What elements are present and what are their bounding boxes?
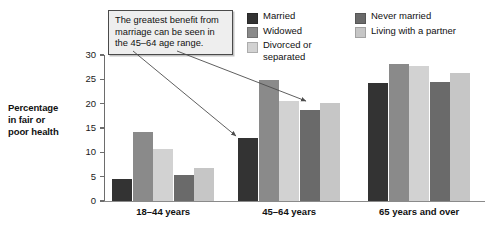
y-tick-mark: [100, 79, 104, 80]
legend-label: Living with a partner: [371, 25, 459, 37]
y-tick-mark: [100, 127, 104, 128]
y-tick-mark: [100, 152, 104, 153]
bar-married-1: [112, 179, 132, 201]
bar-married-2: [238, 138, 258, 201]
bar-living-with-a-partner-1: [194, 168, 214, 201]
bar-widowed-2: [259, 80, 279, 201]
bar-chart-figure: Percentage in fair or poor health 051015…: [0, 0, 499, 232]
legend-label: Widowed: [263, 25, 302, 37]
legend-swatch-icon: [355, 27, 366, 38]
bar-divorced-or-separated-2: [279, 101, 299, 201]
bar-never-married-2: [300, 110, 320, 201]
legend-label: Married: [263, 10, 295, 22]
y-tick-label: 25: [74, 73, 96, 84]
bar-living-with-a-partner-2: [320, 103, 340, 201]
y-tick-label: 5: [74, 171, 96, 182]
arrow-to-married-bar: [133, 51, 236, 136]
bar-never-married-3: [430, 82, 450, 201]
bar-never-married-1: [174, 175, 194, 201]
bar-widowed-3: [389, 64, 409, 201]
legend-swatch-icon: [247, 27, 258, 38]
y-tick-mark: [100, 103, 104, 104]
y-tick-mark: [100, 54, 104, 55]
bar-widowed-1: [133, 132, 153, 201]
y-tick-label: 0: [74, 195, 96, 206]
y-tick-mark: [100, 200, 104, 201]
category-label-1: 18–44 years: [92, 206, 234, 217]
bar-divorced-or-separated-1: [153, 149, 173, 201]
legend-swatch-icon: [247, 13, 258, 24]
bar-married-3: [368, 83, 388, 201]
y-tick-label: 20: [74, 98, 96, 109]
y-tick-mark: [100, 176, 104, 177]
legend-label: Divorced or separated: [263, 39, 351, 62]
y-tick-label: 10: [74, 146, 96, 157]
bar-divorced-or-separated-3: [409, 66, 429, 201]
legend-swatch-icon: [355, 13, 366, 24]
bar-living-with-a-partner-3: [450, 73, 470, 201]
legend-label: Never married: [371, 10, 431, 22]
y-tick-label: 30: [74, 49, 96, 60]
y-tick-label: 15: [74, 122, 96, 133]
annotation-callout: The greatest benefit from marriage can b…: [108, 10, 233, 55]
y-axis-line: [104, 55, 105, 201]
category-label-3: 65 years and over: [348, 206, 490, 217]
chart-legend: MarriedWidowedDivorced or separated Neve…: [247, 10, 497, 70]
legend-swatch-icon: [247, 42, 258, 53]
category-label-2: 45–64 years: [218, 206, 360, 217]
annotation-callout-text: The greatest benefit from marriage can b…: [115, 15, 227, 50]
